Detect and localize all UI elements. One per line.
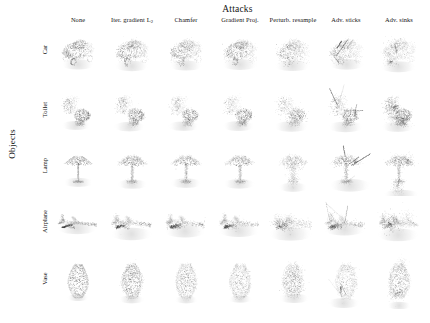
column-header-6: Adv. sinks — [359, 16, 430, 24]
point-cloud-canvas — [320, 140, 372, 196]
cell-toilet-3 — [214, 84, 266, 140]
point-cloud-canvas — [106, 253, 158, 309]
cell-car-6 — [373, 24, 425, 80]
cell-car-1 — [106, 24, 158, 80]
point-cloud-canvas — [160, 140, 212, 196]
point-cloud-canvas — [320, 84, 372, 140]
cell-vase-5 — [320, 253, 372, 309]
column-header-label: None — [71, 16, 85, 23]
cell-lamp-2 — [160, 140, 212, 196]
point-cloud-canvas — [52, 84, 104, 140]
point-cloud-canvas — [160, 196, 212, 252]
column-header-label: Adv. sticks — [331, 16, 360, 23]
cell-lamp-1 — [106, 140, 158, 196]
point-cloud-canvas — [267, 140, 319, 196]
point-cloud-canvas — [267, 196, 319, 252]
point-cloud-canvas — [373, 84, 425, 140]
point-cloud-canvas — [214, 196, 266, 252]
point-cloud-canvas — [320, 24, 372, 80]
column-header-label: Adv. sinks — [385, 16, 413, 23]
row-header-3: Airplane — [41, 192, 48, 252]
cell-car-3 — [214, 24, 266, 80]
point-cloud-canvas — [373, 140, 425, 196]
point-cloud-canvas — [214, 253, 266, 309]
cell-toilet-4 — [267, 84, 319, 140]
cell-vase-2 — [160, 253, 212, 309]
cell-car-5 — [320, 24, 372, 80]
point-cloud-canvas — [160, 24, 212, 80]
column-group-title: Attacks — [45, 4, 430, 15]
cell-toilet-5 — [320, 84, 372, 140]
cell-lamp-0 — [52, 140, 104, 196]
cell-airplane-4 — [267, 196, 319, 252]
point-cloud-canvas — [373, 196, 425, 252]
point-cloud-canvas — [214, 24, 266, 80]
point-cloud-canvas — [52, 24, 104, 80]
point-cloud-canvas — [52, 253, 104, 309]
point-cloud-canvas — [160, 84, 212, 140]
cell-airplane-5 — [320, 196, 372, 252]
cell-airplane-2 — [160, 196, 212, 252]
cell-car-2 — [160, 24, 212, 80]
point-cloud-canvas — [320, 253, 372, 309]
cell-toilet-0 — [52, 84, 104, 140]
cell-airplane-0 — [52, 196, 104, 252]
point-cloud-canvas — [52, 140, 104, 196]
point-cloud-canvas — [320, 196, 372, 252]
point-cloud-canvas — [160, 253, 212, 309]
cell-airplane-3 — [214, 196, 266, 252]
cell-airplane-6 — [373, 196, 425, 252]
cell-lamp-3 — [214, 140, 266, 196]
row-header-1: Toilet — [41, 80, 48, 140]
cell-vase-3 — [214, 253, 266, 309]
cell-toilet-6 — [373, 84, 425, 140]
point-cloud-canvas — [267, 84, 319, 140]
cell-toilet-2 — [160, 84, 212, 140]
column-header-label: Iter. gradient L — [111, 16, 151, 23]
row-header-2: Lamp — [41, 136, 48, 196]
point-cloud-canvas — [214, 84, 266, 140]
point-cloud-canvas — [373, 253, 425, 309]
point-cloud-figure: Attacks Objects NoneIter. gradient L2Cha… — [0, 0, 430, 323]
point-cloud-canvas — [214, 140, 266, 196]
point-cloud-canvas — [267, 24, 319, 80]
point-cloud-canvas — [106, 140, 158, 196]
point-cloud-canvas — [106, 196, 158, 252]
cell-lamp-4 — [267, 140, 319, 196]
cell-lamp-6 — [373, 140, 425, 196]
cell-vase-0 — [52, 253, 104, 309]
cell-vase-1 — [106, 253, 158, 309]
cell-car-4 — [267, 24, 319, 80]
point-cloud-canvas — [52, 196, 104, 252]
row-group-label: Objects — [7, 114, 17, 174]
point-cloud-canvas — [373, 24, 425, 80]
point-cloud-canvas — [267, 253, 319, 309]
point-cloud-canvas — [106, 84, 158, 140]
column-header-label: Chamfer — [174, 16, 197, 23]
cell-toilet-1 — [106, 84, 158, 140]
cell-lamp-5 — [320, 140, 372, 196]
cell-airplane-1 — [106, 196, 158, 252]
cell-car-0 — [52, 24, 104, 80]
cell-vase-6 — [373, 253, 425, 309]
point-cloud-canvas — [106, 24, 158, 80]
row-header-0: Car — [41, 20, 48, 80]
row-header-4: Vase — [41, 249, 48, 309]
cell-vase-4 — [267, 253, 319, 309]
